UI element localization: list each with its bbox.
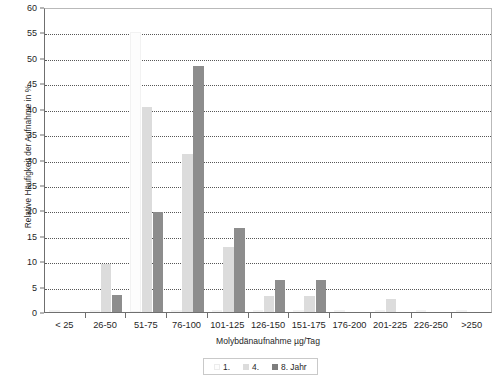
bar	[456, 310, 467, 312]
bar	[193, 66, 204, 312]
plot-area	[44, 8, 492, 313]
bar-group	[167, 9, 208, 312]
bar-group	[45, 9, 86, 312]
legend-item[interactable]: 8. Jahr	[272, 362, 307, 372]
bar	[304, 296, 315, 312]
x-axis-tick-mark	[85, 313, 86, 318]
bar	[49, 310, 60, 312]
x-axis-tick-mark	[166, 313, 167, 318]
x-axis-tick-mark	[248, 313, 249, 318]
legend-swatch-icon	[272, 364, 278, 370]
bar-group	[208, 9, 249, 312]
bar-group	[249, 9, 290, 312]
x-axis-tick-mark	[411, 313, 412, 318]
y-axis-tick-label: 5	[32, 283, 37, 293]
legend-item[interactable]: 1.	[214, 362, 230, 372]
y-axis-tick-label: 25	[27, 181, 37, 191]
y-axis-tick-label: 55	[27, 28, 37, 38]
y-axis-tick-label: 50	[27, 54, 37, 64]
bar-group	[330, 9, 371, 312]
bar	[316, 280, 327, 312]
bar	[375, 310, 386, 312]
bar	[90, 310, 101, 312]
bar	[334, 310, 345, 312]
y-axis-tick-label: 10	[27, 257, 37, 267]
bar-group	[289, 9, 330, 312]
x-axis-tick-label: 51-75	[134, 320, 158, 330]
x-axis-tick-label: 26-50	[93, 320, 117, 330]
legend-label: 8. Jahr	[281, 362, 307, 372]
y-axis-tick-label: 20	[27, 206, 37, 216]
x-axis-tick-label: < 25	[55, 320, 73, 330]
bars-layer	[45, 9, 491, 312]
bar	[223, 247, 234, 312]
bar-group	[452, 9, 493, 312]
legend-swatch-icon	[243, 364, 249, 370]
bar	[293, 310, 304, 312]
x-axis-tick-mark	[370, 313, 371, 318]
bar	[275, 280, 286, 312]
y-axis-tick-label: 0	[32, 308, 37, 318]
x-axis-tick-labels: < 2526-5051-7576-100101-125126-150151-17…	[44, 320, 492, 336]
y-axis-tick-label: 35	[27, 130, 37, 140]
bar	[182, 154, 193, 312]
x-axis-tick-marks	[44, 313, 492, 319]
x-axis-tick-label: 151-175	[292, 320, 326, 330]
chart-legend: 1.4.8. Jahr	[203, 358, 318, 375]
bar-group	[412, 9, 453, 312]
y-axis-tick-label: 60	[27, 3, 37, 13]
bar-group	[126, 9, 167, 312]
bar	[386, 299, 397, 312]
bar	[153, 212, 164, 312]
chart-figure: Relative Häufigkeit der Aufnahme in % 05…	[0, 0, 498, 384]
x-axis-tick-label: 101-125	[210, 320, 244, 330]
y-axis-ticks: 051015202530354045505560	[0, 8, 44, 313]
bar	[253, 310, 264, 312]
legend-item[interactable]: 4.	[243, 362, 259, 372]
x-axis-tick-label: 76-100	[172, 320, 201, 330]
bar	[112, 295, 123, 312]
bar	[264, 296, 275, 312]
x-axis-title: Molybdänaufnahme µg/Tag	[44, 336, 492, 346]
bar	[171, 310, 182, 312]
bar	[142, 107, 153, 312]
x-axis-tick-label: >250	[461, 320, 482, 330]
bar	[212, 310, 223, 312]
x-axis-tick-label: 201-225	[373, 320, 407, 330]
y-axis-tick-label: 40	[27, 105, 37, 115]
bar	[416, 310, 427, 312]
x-axis-tick-label: 226-250	[414, 320, 448, 330]
x-axis-tick-mark	[125, 313, 126, 318]
bar-group	[371, 9, 412, 312]
x-axis-tick-mark	[207, 313, 208, 318]
bar-group	[86, 9, 127, 312]
legend-swatch-icon	[214, 364, 220, 370]
y-axis-tick-label: 30	[27, 156, 37, 166]
legend-label: 4.	[252, 362, 259, 372]
x-axis-tick-mark	[451, 313, 452, 318]
y-axis-tick-label: 15	[27, 232, 37, 242]
x-axis-tick-label: 176-200	[332, 320, 366, 330]
bar	[130, 32, 141, 312]
x-axis-tick-mark	[288, 313, 289, 318]
y-axis-tick-label: 45	[27, 79, 37, 89]
x-axis-tick-label: 126-150	[251, 320, 285, 330]
legend-label: 1.	[223, 362, 230, 372]
x-axis-tick-mark	[329, 313, 330, 318]
bar	[234, 228, 245, 312]
bar	[101, 264, 112, 312]
